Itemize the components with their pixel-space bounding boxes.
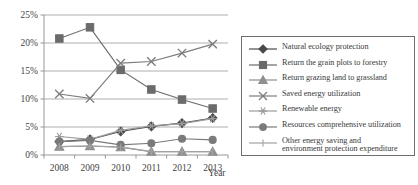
plot-area: 0%5%10%15%20%25% 20082009201020112012201…	[0, 0, 238, 185]
legend-item[interactable]: Return grazing land to grassland	[246, 73, 411, 89]
legend-label: Saved energy utilization	[282, 89, 360, 98]
data-point-square	[117, 66, 124, 73]
x-tick-label: 2012	[173, 163, 192, 173]
y-tick-label: 5%	[25, 122, 38, 132]
data-point-circle	[260, 124, 267, 131]
axis-lines	[44, 15, 228, 155]
data-point-square	[209, 105, 216, 112]
legend-marker-asterisk-icon	[246, 104, 280, 118]
legend-marker-square-icon	[246, 58, 280, 72]
chart-figure: 0%5%10%15%20%25% 20082009201020112012201…	[0, 0, 418, 185]
data-point-diamond	[259, 45, 267, 53]
chart-legend: Natural ecology protectionReturn the gra…	[241, 36, 415, 156]
y-tick-label: 20%	[21, 38, 39, 48]
legend-label: Other energy saving and environment prot…	[282, 136, 398, 154]
data-point-circle	[148, 140, 155, 147]
series-line	[59, 118, 212, 142]
legend-marker-x-icon	[246, 89, 280, 103]
data-point-square	[259, 61, 266, 68]
series-line	[59, 146, 212, 152]
data-point-square	[86, 24, 93, 31]
legend-label: Return grazing land to grassland	[282, 73, 387, 82]
line-chart-svg: 0%5%10%15%20%25% 20082009201020112012201…	[0, 0, 238, 185]
legend-item[interactable]: Resources comprehensive utilization	[246, 120, 411, 136]
y-tick-label: 25%	[21, 10, 39, 20]
data-point-square	[148, 86, 155, 93]
legend-label: Natural ecology protection	[282, 42, 368, 51]
data-point-square	[178, 96, 185, 103]
data-point-circle	[209, 136, 216, 143]
data-point-x	[208, 40, 216, 48]
x-tick-label: 2010	[111, 163, 130, 173]
data-point-asterisk	[259, 108, 267, 115]
legend-marker-circle-icon	[246, 120, 280, 134]
y-tick-label: 10%	[21, 94, 39, 104]
data-point-x	[178, 49, 186, 57]
legend-item[interactable]: Renewable energy	[246, 104, 411, 120]
legend-item[interactable]: Natural ecology protection	[246, 42, 411, 58]
legend-marker-diamond-icon	[246, 42, 280, 56]
y-tick-label: 15%	[21, 66, 39, 76]
legend-item[interactable]: Other energy saving and environment prot…	[246, 136, 411, 159]
data-point-circle	[179, 135, 186, 142]
legend-label: Resources comprehensive utilization	[282, 120, 401, 129]
x-axis-title: Year	[208, 168, 226, 178]
x-tick-label: 2008	[50, 163, 69, 173]
y-tick-label: 0%	[25, 150, 38, 160]
gridlines	[44, 15, 228, 127]
y-axis-tick-labels: 0%5%10%15%20%25%	[21, 10, 39, 160]
series-line	[59, 27, 212, 108]
legend-item[interactable]: Return the grain plots to forestry	[246, 58, 411, 74]
legend-item[interactable]: Saved energy utilization	[246, 89, 411, 105]
legend-marker-triangle-icon	[246, 73, 280, 87]
x-axis-tick-labels: 200820092010201120122013	[50, 163, 223, 173]
legend-marker-plus-icon	[246, 136, 280, 150]
x-tick-label: 2009	[81, 163, 100, 173]
legend-label: Renewable energy	[282, 104, 342, 113]
data-point-square	[56, 35, 63, 42]
x-tick-label: 2011	[142, 163, 161, 173]
legend-label: Return the grain plots to forestry	[282, 58, 387, 67]
